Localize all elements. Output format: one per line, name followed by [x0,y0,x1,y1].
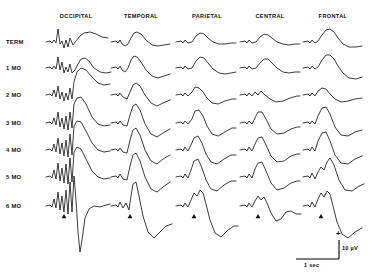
waveform-trace [111,104,170,137]
waveform-trace [176,159,236,191]
waveform-trace [46,176,110,252]
calibration-time-label: 1 sec [304,262,319,268]
stimulus-onset-marker-icon [319,214,324,218]
waveform-trace [303,191,362,238]
waveform-canvas [0,0,376,276]
waveform-trace [176,87,236,104]
waveform-trace [303,55,362,79]
waveform-trace [176,136,236,164]
calibration-bar [296,240,339,259]
waveform-trace [111,32,170,46]
waveform-trace [46,68,110,101]
waveform-trace [46,97,110,130]
waveform-trace [176,33,236,44]
calibration-polarity-label: + [336,229,341,238]
waveform-trace [176,110,236,136]
waveform-trace [303,132,362,164]
waveform-trace [111,83,170,106]
stimulus-onset-marker-icon [128,214,133,218]
waveform-trace [176,190,238,237]
waveform-trace [111,153,170,192]
waveform-trace [240,137,300,162]
waveform-trace [240,91,300,102]
waveform-trace [240,112,300,134]
waveform-trace [46,147,110,184]
stimulus-onset-marker-icon [62,214,67,218]
waveform-trace [240,196,301,221]
waveform-trace [46,29,108,48]
stimulus-onset-marker-icon [192,214,197,218]
waveform-trace [111,182,172,238]
waveform-trace [303,29,362,47]
evoked-potential-figure: OCCIPITAL TEMPORAL PARIETAL CENTRAL FRON… [0,0,376,276]
waveform-trace [111,128,170,164]
waveform-trace [240,162,300,190]
waveform-trace [303,88,362,102]
waveform-trace [303,158,364,191]
waveform-trace [240,34,300,45]
waveform-trace [240,59,300,73]
calibration-amplitude-label: 10 µV [342,245,358,251]
waveform-trace [176,57,236,74]
waveform-trace [46,121,110,157]
waveform-trace [303,107,362,136]
stimulus-onset-marker-icon [256,214,261,218]
trace-layer [46,29,364,252]
waveform-trace [111,56,170,78]
